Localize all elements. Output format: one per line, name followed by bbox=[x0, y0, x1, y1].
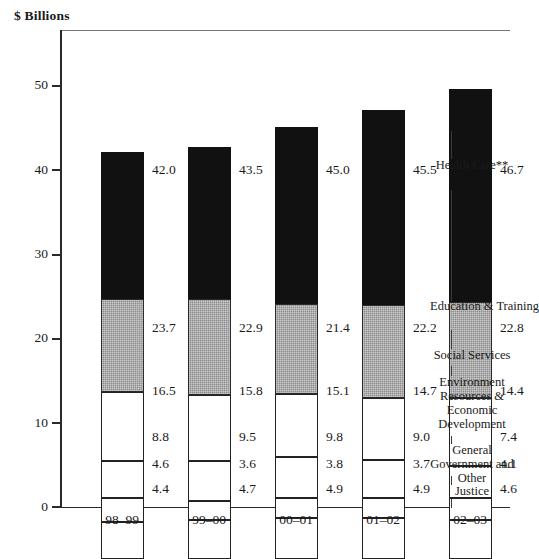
legend-leader-justice-bottom bbox=[451, 499, 452, 508]
x-tick-label-00-01: 00–01 bbox=[261, 512, 331, 528]
segment-environment bbox=[362, 460, 405, 498]
y-tick-label-40: 40 bbox=[6, 162, 48, 178]
legend-label-environment: Environment Resources & Economic Develop… bbox=[430, 375, 514, 431]
segment-social-services bbox=[275, 394, 318, 457]
value-00-01-general-government: 3.8 bbox=[326, 456, 343, 472]
y-tick-20 bbox=[52, 338, 61, 340]
segment-health-care bbox=[188, 147, 231, 299]
y-tick-label-10: 10 bbox=[6, 415, 48, 431]
value-00-01-social-services: 15.1 bbox=[326, 383, 350, 399]
segment-health-care bbox=[275, 127, 318, 304]
value-00-01-justice: 4.9 bbox=[326, 481, 343, 497]
value-00-01-environment: 9.8 bbox=[326, 429, 343, 445]
segment-education-training bbox=[101, 299, 144, 392]
segment-environment bbox=[275, 457, 318, 498]
value-99-00-justice: 4.7 bbox=[239, 481, 256, 497]
y-tick-40 bbox=[52, 169, 61, 171]
value-00-01-health-care: 45.0 bbox=[326, 162, 350, 178]
legend-label-education-training: Education & Training bbox=[430, 299, 514, 313]
segment-education-training bbox=[362, 305, 405, 398]
y-tick-label-30: 30 bbox=[6, 246, 48, 262]
value-98-99-health-care: 42.0 bbox=[152, 162, 176, 178]
value-98-99-education-training: 23.7 bbox=[152, 320, 176, 336]
value-99-00-general-government: 3.6 bbox=[239, 456, 256, 472]
y-axis-line bbox=[60, 30, 62, 508]
legend-leader-health-care-top bbox=[451, 131, 452, 159]
segment-environment bbox=[188, 461, 231, 501]
value-98-99-justice: 4.4 bbox=[152, 481, 169, 497]
x-tick-label-02-03: 02–03 bbox=[435, 512, 505, 528]
legend-label-general-government: General Government and Other bbox=[430, 443, 514, 485]
y-tick-10 bbox=[52, 422, 61, 424]
value-00-01-education-training: 21.4 bbox=[326, 320, 350, 336]
value-01-02-justice: 4.9 bbox=[413, 481, 430, 497]
segment-social-services bbox=[101, 392, 144, 461]
value-98-99-general-government: 4.6 bbox=[152, 456, 169, 472]
y-tick-30 bbox=[52, 254, 61, 256]
segment-health-care bbox=[362, 110, 405, 305]
value-99-00-social-services: 15.8 bbox=[239, 383, 263, 399]
y-axis-title: $ Billions bbox=[14, 8, 70, 24]
y-tick-50 bbox=[52, 85, 61, 87]
segment-social-services bbox=[188, 395, 231, 461]
legend-leader-social-services bbox=[451, 330, 452, 349]
y-tick-label-20: 20 bbox=[6, 330, 48, 346]
value-99-00-education-training: 22.9 bbox=[239, 320, 263, 336]
segment-education-training bbox=[188, 299, 231, 395]
legend-label-health-care: Health Care** bbox=[430, 158, 514, 172]
segment-environment bbox=[101, 461, 144, 498]
value-99-00-environment: 9.5 bbox=[239, 429, 256, 445]
value-98-99-environment: 8.8 bbox=[152, 429, 169, 445]
legend-leader-education-training bbox=[451, 190, 452, 301]
segment-health-care bbox=[101, 152, 144, 299]
x-tick-label-99-00: 99–00 bbox=[174, 512, 244, 528]
value-01-02-environment: 9.0 bbox=[413, 429, 430, 445]
value-01-02-education-training: 22.2 bbox=[413, 320, 437, 336]
segment-education-training bbox=[275, 304, 318, 394]
segment-health-care bbox=[449, 89, 492, 302]
value-98-99-social-services: 16.5 bbox=[152, 383, 176, 399]
segment-social-services bbox=[362, 398, 405, 460]
y-tick-label-50: 50 bbox=[6, 77, 48, 93]
y-tick-label-0: 0 bbox=[6, 499, 48, 515]
y-tick-0 bbox=[52, 506, 61, 508]
value-99-00-health-care: 43.5 bbox=[239, 162, 263, 178]
legend-label-justice: Justice bbox=[430, 484, 514, 498]
x-tick-label-01-02: 01–02 bbox=[348, 512, 418, 528]
x-tick-label-98-99: 98–99 bbox=[87, 512, 157, 528]
value-02-03-education-training: 22.8 bbox=[500, 320, 524, 336]
plot-top-rule bbox=[60, 30, 510, 31]
value-01-02-general-government: 3.7 bbox=[413, 456, 430, 472]
legend-label-social-services: Social Services bbox=[430, 348, 514, 362]
